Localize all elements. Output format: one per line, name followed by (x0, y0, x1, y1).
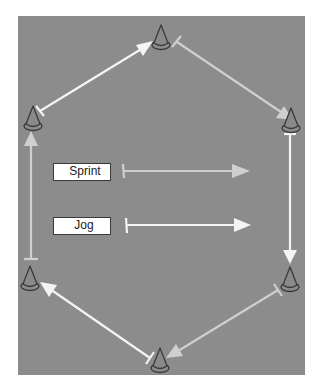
path-lower-left-to-upper-left (24, 131, 38, 259)
path-upper-right-to-lower-right (283, 134, 297, 264)
path-bottom-to-lower-left (40, 282, 154, 364)
arrowhead-icon (40, 282, 57, 297)
cone-icon-top (152, 25, 170, 50)
legend-sprint-line (123, 164, 250, 178)
path-upper-left-to-top (36, 41, 153, 116)
start-tick-icon (36, 106, 44, 116)
path-lower-right-to-bottom (166, 284, 282, 358)
arrowhead-icon (24, 131, 38, 146)
start-tick-icon (172, 36, 181, 47)
legend-jog-line (126, 218, 251, 233)
legend-label-sprint: Sprint (53, 163, 111, 181)
start-tick-icon (123, 164, 124, 178)
drill-diagram (0, 0, 324, 391)
cone-icon-bottom (151, 348, 169, 373)
cone-icon-lower-right (281, 267, 299, 292)
arrowhead-icon (232, 164, 250, 178)
cone-icon-lower-left (21, 266, 39, 291)
legend-label-jog: Jog (53, 217, 111, 235)
start-tick-icon (126, 218, 127, 233)
path-top-to-upper-right (172, 36, 293, 120)
arrowhead-icon (166, 344, 183, 358)
arrowhead-icon (234, 218, 251, 232)
arrowhead-icon (283, 250, 297, 264)
arrowhead-icon (136, 41, 153, 56)
start-tick-icon (146, 352, 154, 364)
